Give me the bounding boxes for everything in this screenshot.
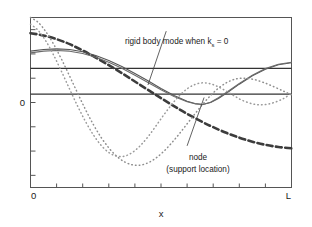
- mode-shape-chart: 0 L 0 x rigid body mode when ks = 0 node…: [0, 0, 312, 227]
- x-axis-ticks: [57, 184, 266, 188]
- annotation-leader-lines: [148, 31, 204, 146]
- node-annotation-line1: node: [189, 153, 208, 162]
- rigid-body-annotation-text: rigid body mode when ks = 0: [125, 37, 229, 48]
- y-axis-zero-label: 0: [20, 97, 25, 108]
- rigid-body-annotation-main: rigid body mode when k: [125, 37, 212, 46]
- rigid-body-mode-dashed: [31, 33, 292, 148]
- x-axis-min-label: 0: [31, 190, 36, 201]
- node-annotation-line2: (support location): [166, 165, 230, 174]
- figure-container: 0 L 0 x rigid body mode when ks = 0 node…: [0, 0, 312, 227]
- rigid-body-annotation-tail: = 0: [214, 37, 228, 46]
- x-axis-max-label: L: [286, 190, 291, 201]
- x-axis-title: x: [159, 208, 164, 219]
